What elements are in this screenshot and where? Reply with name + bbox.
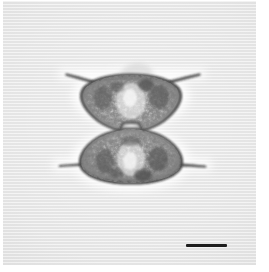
scale-bar [186, 244, 227, 247]
microscope-field [3, 1, 256, 265]
micrograph-figure [0, 0, 269, 272]
specimen-image [3, 1, 256, 265]
